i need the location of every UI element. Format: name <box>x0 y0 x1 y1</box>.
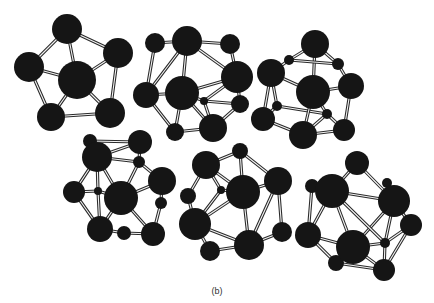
atom <box>336 230 370 264</box>
atom <box>133 156 145 168</box>
atom <box>345 151 369 175</box>
atom <box>104 181 138 215</box>
atom <box>133 82 159 108</box>
atom <box>94 187 102 195</box>
atom <box>315 174 349 208</box>
atom <box>180 188 196 204</box>
atom <box>295 222 321 248</box>
atom <box>226 175 260 209</box>
atoms-layer <box>14 14 422 281</box>
atom <box>87 216 113 242</box>
atom <box>373 259 395 281</box>
atom <box>145 33 165 53</box>
atom <box>82 142 112 172</box>
atom <box>251 107 275 131</box>
atom <box>264 167 292 195</box>
atom <box>322 109 332 119</box>
atom <box>284 55 294 65</box>
atom <box>199 114 227 142</box>
atom <box>166 123 184 141</box>
cluster-4-atoms <box>63 130 176 246</box>
atom <box>37 103 65 131</box>
atom <box>63 181 85 203</box>
atom <box>128 130 152 154</box>
atom <box>289 121 317 149</box>
atom <box>95 98 125 128</box>
atom <box>338 73 364 99</box>
atom <box>165 76 199 110</box>
atom <box>378 185 410 217</box>
atom <box>179 208 211 240</box>
atom <box>221 61 253 93</box>
figure-caption: (b) <box>0 286 434 296</box>
atom <box>231 95 249 113</box>
atom <box>155 197 167 209</box>
atom <box>257 59 285 87</box>
atom <box>200 97 208 105</box>
cluster-2-atoms <box>133 26 253 142</box>
atom <box>192 151 220 179</box>
atom <box>103 38 133 68</box>
atom <box>148 167 176 195</box>
atom <box>52 14 82 44</box>
atom <box>272 101 282 111</box>
atom <box>200 241 220 261</box>
atom <box>333 119 355 141</box>
atom <box>172 26 202 56</box>
atom <box>272 222 292 242</box>
atom <box>301 30 329 58</box>
cluster-figure <box>0 0 434 303</box>
atom <box>220 34 240 54</box>
atom <box>380 238 390 248</box>
atom <box>217 186 225 194</box>
atom <box>117 226 131 240</box>
atom <box>14 52 44 82</box>
atom <box>58 61 96 99</box>
atom <box>400 214 422 236</box>
atom <box>141 222 165 246</box>
atom <box>234 230 264 260</box>
atom <box>296 75 330 109</box>
atom <box>332 58 344 70</box>
cluster-5-atoms <box>179 143 292 261</box>
atom <box>232 143 248 159</box>
